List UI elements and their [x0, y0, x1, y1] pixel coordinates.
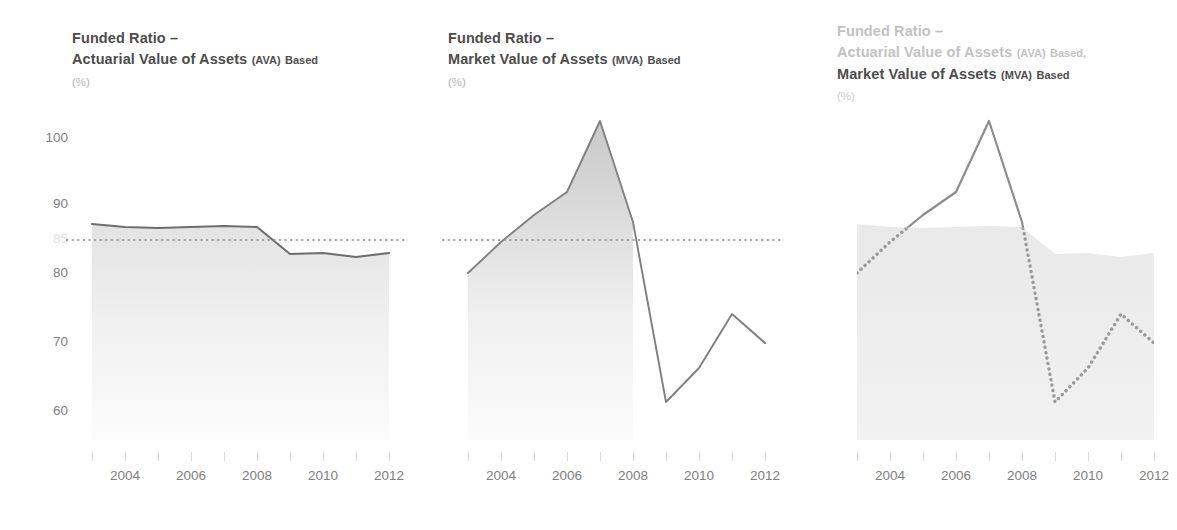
x-tick-2003	[857, 452, 858, 461]
x-label-2008: 2008	[1007, 468, 1037, 483]
x-tick-2006	[956, 452, 957, 461]
x-tick-2009	[1055, 452, 1056, 461]
panel-ava-title: Funded Ratio – Actuarial Value of Assets…	[72, 27, 318, 90]
combined-title-mva-main: Market Value of Assets	[837, 66, 997, 82]
x-tick-2008	[1022, 452, 1023, 461]
x-tick-2005	[534, 452, 535, 461]
x-tick-2012	[389, 452, 390, 461]
ava-unit-label: (%)	[72, 75, 318, 90]
y-label-85: 85	[53, 231, 68, 246]
x-label-2010: 2010	[1073, 468, 1103, 483]
x-label-2006: 2006	[552, 468, 582, 483]
mva-title-main: Market Value of Assets	[448, 51, 608, 67]
x-tick-2010	[1088, 452, 1089, 461]
x-label-2010: 2010	[308, 468, 338, 483]
combined-title-line1: Funded Ratio –	[837, 23, 943, 39]
y-label-80: 80	[53, 265, 68, 280]
x-tick-2011	[732, 452, 733, 461]
ava-plot	[72, 110, 402, 440]
y-label-100: 100	[45, 130, 68, 145]
combined-title-mva-tail: Based	[1037, 69, 1070, 81]
x-label-2006: 2006	[176, 468, 206, 483]
panel-combined: Funded Ratio – Actuarial Value of Assets…	[820, 0, 1177, 530]
x-tick-2004	[501, 452, 502, 461]
ava-title-tail: Based	[285, 54, 318, 66]
combined-title-ava-main: Actuarial Value of Assets	[837, 44, 1012, 60]
ava-title-line1: Funded Ratio –	[72, 30, 178, 46]
mva-title-line1: Funded Ratio –	[448, 30, 554, 46]
combined-unit-label: (%)	[837, 89, 1086, 104]
panel-combined-title: Funded Ratio – Actuarial Value of Assets…	[837, 20, 1086, 105]
combined-plot	[837, 110, 1167, 440]
mva-x-axis: 2004 2006 2008 2010 2012	[448, 452, 778, 492]
combined-title-ava-tail: Based,	[1050, 47, 1086, 59]
x-tick-2010	[699, 452, 700, 461]
y-axis-labels: 100 90 85 80 70 60	[26, 0, 68, 530]
mva-title-tail: Based	[648, 54, 681, 66]
x-label-2006: 2006	[941, 468, 971, 483]
x-label-2012: 2012	[1139, 468, 1169, 483]
x-tick-2004	[890, 452, 891, 461]
y-label-60: 60	[53, 403, 68, 418]
combined-title-ava-paren: (AVA)	[1017, 47, 1046, 59]
x-label-2012: 2012	[750, 468, 780, 483]
mva-title-paren: (MVA)	[612, 54, 643, 66]
x-tick-2010	[323, 452, 324, 461]
x-tick-2007	[989, 452, 990, 461]
y-label-70: 70	[53, 334, 68, 349]
x-tick-2009	[290, 452, 291, 461]
x-label-2012: 2012	[374, 468, 404, 483]
figure-root: Funded Ratio – Actuarial Value of Assets…	[0, 0, 1177, 530]
x-label-2004: 2004	[875, 468, 905, 483]
x-label-2008: 2008	[618, 468, 648, 483]
y-label-90: 90	[53, 196, 68, 211]
x-tick-2012	[1154, 452, 1155, 461]
x-label-2004: 2004	[110, 468, 140, 483]
combined-x-axis: 2004 2006 2008 2010 2012	[837, 452, 1167, 492]
x-tick-2009	[666, 452, 667, 461]
mva-area	[468, 121, 633, 440]
x-label-2004: 2004	[486, 468, 516, 483]
panel-mva-title: Funded Ratio – Market Value of Assets (M…	[448, 27, 681, 90]
x-tick-2006	[191, 452, 192, 461]
x-tick-2003	[468, 452, 469, 461]
x-tick-2005	[923, 452, 924, 461]
x-tick-2011	[356, 452, 357, 461]
x-label-2010: 2010	[684, 468, 714, 483]
ava-title-main: Actuarial Value of Assets	[72, 51, 247, 67]
x-tick-2006	[567, 452, 568, 461]
x-tick-2004	[125, 452, 126, 461]
x-tick-2012	[765, 452, 766, 461]
x-tick-2005	[158, 452, 159, 461]
x-tick-2003	[92, 452, 93, 461]
x-tick-2008	[633, 452, 634, 461]
x-tick-2011	[1121, 452, 1122, 461]
ava-title-paren: (AVA)	[252, 54, 281, 66]
combined-title-mva-paren: (MVA)	[1001, 69, 1032, 81]
mva-unit-label: (%)	[448, 75, 681, 90]
panel-ava: Funded Ratio – Actuarial Value of Assets…	[0, 0, 430, 530]
panel-mva: Funded Ratio – Market Value of Assets (M…	[430, 0, 820, 530]
combined-ava-area	[857, 224, 1154, 440]
mva-plot	[448, 110, 778, 440]
x-label-2008: 2008	[242, 468, 272, 483]
x-tick-2007	[600, 452, 601, 461]
x-tick-2008	[257, 452, 258, 461]
x-tick-2007	[224, 452, 225, 461]
ava-x-axis: 2004 2006 2008 2010 2012	[72, 452, 402, 492]
